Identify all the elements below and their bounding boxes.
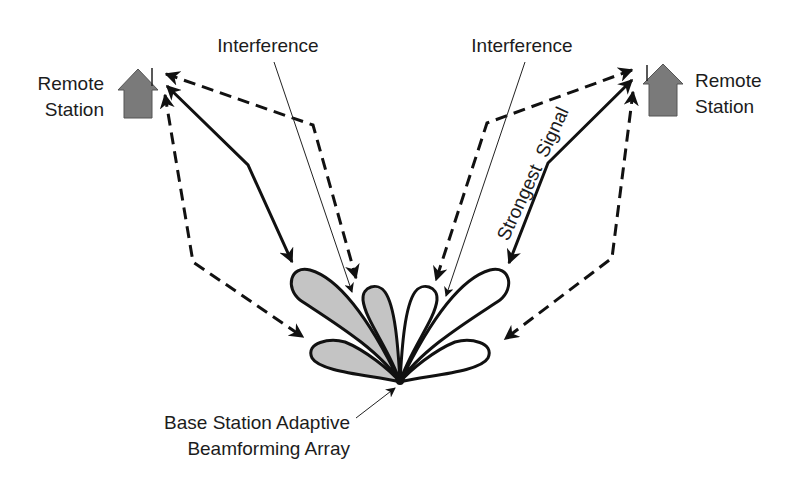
remote-station-left-line2: Station	[20, 98, 104, 122]
interference-left-line	[274, 62, 352, 292]
interference-lines	[274, 62, 525, 296]
remote-station-right-label: Remote Station	[695, 69, 762, 119]
left-direct-path	[167, 86, 292, 262]
base-station-line2: Beamforming Array	[100, 437, 350, 461]
remote-station-left-line1: Remote	[20, 72, 104, 96]
beam-lobes	[291, 269, 508, 385]
base-station-label: Base Station Adaptive Beamforming Array	[100, 411, 350, 461]
interference-left-label: Interference	[213, 34, 323, 58]
base-station-line1: Base Station Adaptive	[100, 411, 350, 435]
remote-station-right-line2: Station	[695, 95, 762, 119]
interference-right-line	[446, 62, 525, 296]
remote-station-left-label: Remote Station	[20, 72, 104, 122]
base-station-pointer	[356, 388, 395, 418]
interference-right-label: Interference	[467, 34, 577, 58]
remote-station-right-icon	[643, 64, 683, 116]
strongest-signal-label: Strongest Signal	[493, 104, 573, 244]
array-origin-dot	[396, 377, 404, 385]
remote-station-left-icon	[118, 68, 158, 118]
left-multipath-lower	[165, 95, 303, 337]
left-multipath-upper	[166, 74, 356, 278]
remote-station-right-line1: Remote	[695, 69, 762, 93]
